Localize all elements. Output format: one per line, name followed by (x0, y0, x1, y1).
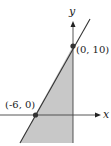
y-axis-arrow-icon (71, 21, 76, 27)
point-label-neg6-0: (-6, 0) (5, 99, 35, 110)
graph-svg: y x (0, 10) (-6, 0) (0, 0, 111, 146)
point-0-10 (70, 43, 75, 48)
x-axis-label: x (103, 108, 110, 121)
inequality-graph: y x (0, 10) (-6, 0) (0, 0, 111, 146)
point-neg6-0 (33, 112, 38, 117)
x-axis-arrow-icon (95, 113, 101, 118)
y-axis-label: y (68, 5, 76, 18)
point-label-0-10: (0, 10) (76, 44, 109, 55)
